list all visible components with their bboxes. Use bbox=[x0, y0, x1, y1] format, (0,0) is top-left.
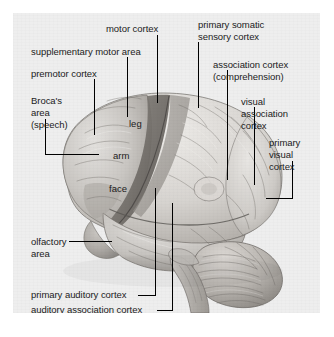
label-brocas-area-line2: area bbox=[31, 107, 50, 119]
label-primary-visual-line3: cortex bbox=[269, 161, 295, 173]
label-auditory-association-cortex: auditory association cortex bbox=[31, 304, 142, 313]
leader-line-auditory-association-cortex-vertical bbox=[172, 203, 173, 311]
label-primary-somatic-line2: sensory cortex bbox=[198, 31, 259, 43]
label-visual-association-line2: association bbox=[241, 108, 288, 120]
label-brocas-area-line1: Broca's bbox=[31, 95, 62, 107]
label-primary-visual-line2: visual bbox=[269, 149, 293, 161]
label-premotor-cortex: premotor cortex bbox=[31, 68, 97, 80]
leader-line-primary-somatic-sensory-cortex bbox=[198, 42, 199, 108]
label-supplementary-motor-area: supplementary motor area bbox=[31, 46, 141, 58]
label-motor-cortex: motor cortex bbox=[106, 23, 158, 35]
leader-line-primary-visual-cortex-horizontal bbox=[266, 198, 293, 199]
label-face: face bbox=[109, 183, 127, 194]
label-olfactory-area-line2: area bbox=[31, 248, 50, 260]
label-brocas-area-line3: (speech) bbox=[31, 119, 68, 131]
label-arm: arm bbox=[113, 150, 129, 161]
label-visual-association-line3: cortex bbox=[241, 120, 267, 132]
leader-line-supplementary-motor-area bbox=[127, 57, 128, 117]
leader-line-primary-auditory-cortex-horizontal bbox=[138, 295, 156, 296]
label-association-cortex-line2: (comprehension) bbox=[213, 71, 284, 83]
label-leg: leg bbox=[129, 118, 142, 129]
label-primary-auditory-cortex: primary auditory cortex bbox=[31, 289, 126, 301]
leader-line-primary-auditory-cortex-vertical bbox=[155, 188, 156, 296]
leader-line-olfactory-area bbox=[69, 241, 112, 242]
leader-line-premotor-cortex bbox=[94, 79, 95, 135]
leader-line-association-cortex bbox=[227, 70, 228, 180]
leader-line-auditory-association-cortex-horizontal bbox=[157, 310, 173, 311]
leader-line-brocas-area-horizontal bbox=[45, 154, 99, 155]
brain-diagram-figure: motor cortex supplementary motor area pr… bbox=[13, 13, 320, 313]
label-visual-association-line1: visual bbox=[241, 96, 265, 108]
label-primary-somatic-line1: primary somatic bbox=[198, 19, 264, 31]
leader-line-motor-cortex bbox=[157, 35, 158, 103]
label-primary-visual-line1: primary bbox=[269, 137, 300, 149]
label-olfactory-area-line1: olfactory bbox=[31, 236, 66, 248]
label-association-cortex-line1: association cortex bbox=[213, 59, 288, 71]
